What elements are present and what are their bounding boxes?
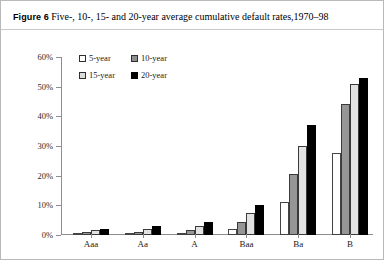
- bar-group-aaa: [73, 57, 109, 235]
- bar-aa-15-year: [143, 229, 152, 235]
- x-axis-tick: [246, 234, 247, 238]
- bar-aaa-15-year: [91, 230, 100, 235]
- x-axis-tick: [298, 234, 299, 238]
- bar-ba-5-year: [280, 202, 289, 235]
- bar-group-b: [332, 57, 368, 235]
- figure-label: Figure 6: [13, 12, 49, 22]
- bar-aa-10-year: [134, 232, 143, 235]
- y-axis-label: 20%: [13, 172, 53, 180]
- bar-a-5-year: [177, 233, 186, 235]
- bar-aa-20-year: [152, 226, 161, 235]
- bar-baa-10-year: [237, 222, 246, 235]
- x-axis-tick: [91, 234, 92, 238]
- bar-baa-20-year: [255, 205, 264, 235]
- x-axis-tick: [350, 234, 351, 238]
- bar-a-10-year: [186, 230, 195, 235]
- bars-layer: [62, 57, 373, 235]
- bar-aaa-10-year: [82, 232, 91, 235]
- bar-ba-15-year: [298, 146, 307, 235]
- bar-group-ba: [280, 57, 316, 235]
- bar-a-20-year: [204, 222, 213, 235]
- figure-caption: Figure 6 Five-, 10-, 15- and 20-year ave…: [13, 11, 373, 23]
- y-axis-label: 50%: [13, 83, 53, 91]
- bar-aa-5-year: [125, 233, 134, 235]
- x-axis-tick: [195, 234, 196, 238]
- bar-baa-15-year: [246, 213, 255, 235]
- x-axis-label-b: B: [320, 239, 380, 250]
- chart-plot-area: 0%10%20%30%40%50%60% 5-year 10-year 15-y…: [1, 30, 384, 260]
- bar-aaa-20-year: [100, 229, 109, 235]
- bar-b-5-year: [332, 153, 341, 235]
- bar-group-a: [177, 57, 213, 235]
- x-axis-tick: [143, 234, 144, 238]
- bar-baa-5-year: [228, 229, 237, 235]
- y-axis-tick: [56, 176, 61, 177]
- y-axis-label: 40%: [13, 112, 53, 120]
- figure-caption-text: Five-, 10-, 15- and 20-year average cumu…: [51, 11, 328, 22]
- y-axis-tick: [56, 87, 61, 88]
- bar-b-15-year: [350, 84, 359, 235]
- y-axis-label: 60%: [13, 53, 53, 61]
- y-axis-tick: [56, 116, 61, 117]
- bar-group-baa: [228, 57, 264, 235]
- bar-group-aa: [125, 57, 161, 235]
- y-axis-tick: [56, 235, 61, 236]
- y-axis-tick: [56, 205, 61, 206]
- y-axis-label: 10%: [13, 201, 53, 209]
- bar-ba-20-year: [307, 125, 316, 235]
- bar-b-10-year: [341, 104, 350, 235]
- bar-a-15-year: [195, 226, 204, 235]
- bar-ba-10-year: [289, 174, 298, 235]
- y-axis-tick: [56, 57, 61, 58]
- y-axis-tick: [56, 146, 61, 147]
- y-axis-label: 30%: [13, 142, 53, 150]
- bar-aaa-5-year: [73, 233, 82, 235]
- y-axis-label: 0%: [13, 231, 53, 239]
- bar-b-20-year: [359, 78, 368, 235]
- figure-container: Figure 6 Five-, 10-, 15- and 20-year ave…: [0, 0, 384, 260]
